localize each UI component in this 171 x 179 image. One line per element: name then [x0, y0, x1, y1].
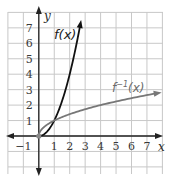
- y-axis-down-arrow-icon: [36, 168, 42, 176]
- x-tick-label: 3: [82, 140, 89, 153]
- x-tick-label: 7: [143, 140, 150, 153]
- y-tick-label: 3: [26, 84, 33, 97]
- y-tick-label: 2: [26, 99, 33, 112]
- finv-label-arg: (x): [128, 81, 144, 95]
- y-axis-label: y: [43, 9, 51, 23]
- x-tick-label: 2: [66, 140, 73, 153]
- y-tick-label: 7: [26, 22, 33, 35]
- x-tick-label: −1: [15, 140, 31, 153]
- x-tick-label: 1: [51, 140, 58, 153]
- f-label: f(x): [54, 27, 76, 42]
- x-tick-label: 6: [128, 140, 135, 153]
- function-inverse-graph: −112345671234567 x y f(x) f−1(x): [0, 0, 171, 179]
- y-tick-label: 1: [26, 115, 33, 128]
- x-axis-right-arrow-icon: [155, 133, 163, 139]
- y-axis-up-arrow-icon: [36, 6, 42, 14]
- finv-arrow-icon: [153, 91, 161, 97]
- finv-label: f−1(x): [112, 80, 145, 95]
- y-tick-label: 6: [26, 37, 33, 50]
- y-tick-label: 4: [26, 68, 33, 81]
- finv-label-sup: −1: [116, 80, 128, 89]
- f-arrow-icon: [77, 20, 83, 28]
- y-tick-label: 5: [26, 53, 33, 66]
- origin-point: [36, 133, 41, 138]
- x-tick-label: 4: [97, 140, 104, 153]
- x-axis-left-arrow-icon: [6, 133, 14, 139]
- x-tick-label: 5: [113, 140, 120, 153]
- x-axis-label: x: [158, 140, 165, 154]
